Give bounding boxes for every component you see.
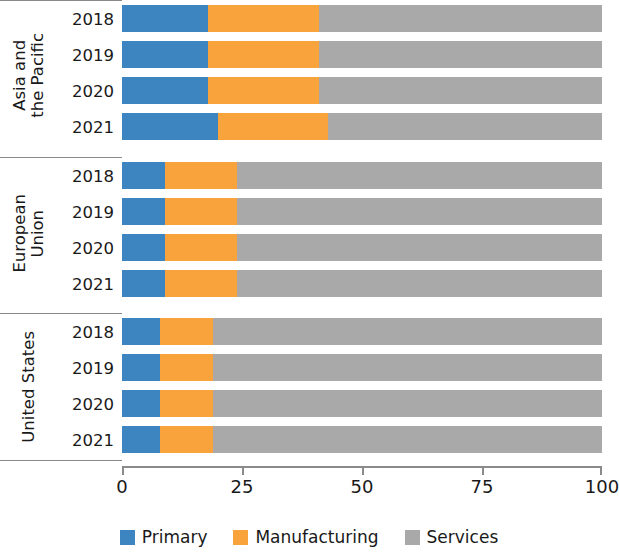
year-label-2018: 2018 (72, 6, 114, 33)
bar-segment-primary (122, 77, 208, 104)
bar-segment-services (213, 390, 602, 417)
plot-area (122, 0, 602, 466)
bar-segment-primary (122, 318, 160, 345)
bar-segment-primary (122, 234, 165, 261)
x-tick-75 (482, 466, 484, 475)
bar-segment-services (237, 270, 602, 297)
bar-segment-manufacturing (165, 198, 237, 225)
bar-segment-primary (122, 198, 165, 225)
group-name-label: EuropeanUnion (11, 194, 48, 273)
bar-row (122, 390, 602, 417)
x-tick-0 (122, 466, 124, 475)
bar-segment-services (213, 426, 602, 453)
group-name-label: Asia andthe Pacific (11, 33, 48, 118)
bar-segment-manufacturing (218, 113, 328, 140)
bar-row (122, 234, 602, 261)
bar-row (122, 426, 602, 453)
bar-segment-manufacturing (165, 270, 237, 297)
legend-item-manufacturing[interactable]: Manufacturing (233, 527, 378, 547)
bar-segment-services (328, 113, 602, 140)
bar-segment-manufacturing (160, 390, 213, 417)
year-label-2021: 2021 (72, 427, 114, 454)
bar-segment-services (319, 41, 602, 68)
legend-label: Services (427, 527, 499, 547)
bar-row (122, 354, 602, 381)
category-axis: Asia andthe Pacific2018201920202021Europ… (0, 0, 122, 466)
legend-item-primary[interactable]: Primary (120, 527, 208, 547)
legend-label: Manufacturing (255, 527, 378, 547)
bar-row (122, 318, 602, 345)
bar-segment-services (237, 162, 602, 189)
bar-segment-services (319, 5, 602, 32)
chart-legend: PrimaryManufacturingServices (0, 527, 618, 547)
year-label-2018: 2018 (72, 163, 114, 190)
bar-row (122, 5, 602, 32)
bar-segment-primary (122, 354, 160, 381)
bar-segment-primary (122, 113, 218, 140)
year-label-2021: 2021 (72, 271, 114, 298)
legend-swatch-icon (233, 530, 248, 545)
x-tick-label-25: 25 (231, 476, 254, 497)
bar-row (122, 162, 602, 189)
year-label-2020: 2020 (72, 78, 114, 105)
year-label-2019: 2019 (72, 355, 114, 382)
bar-segment-services (237, 234, 602, 261)
bar-segment-manufacturing (165, 162, 237, 189)
year-label-2020: 2020 (72, 391, 114, 418)
year-label-2020: 2020 (72, 235, 114, 262)
x-tick-label-0: 0 (116, 476, 127, 497)
bar-row (122, 77, 602, 104)
bar-segment-manufacturing (208, 77, 318, 104)
bar-row (122, 41, 602, 68)
group-name-line: the Pacific (28, 33, 47, 118)
group-name-wrapper: Asia andthe Pacific (6, 1, 52, 150)
group-name-wrapper: United States (6, 314, 52, 460)
bar-segment-primary (122, 5, 208, 32)
bar-segment-manufacturing (160, 318, 213, 345)
bar-row (122, 198, 602, 225)
group-name-label: United States (20, 331, 38, 443)
bar-row (122, 113, 602, 140)
bar-row (122, 270, 602, 297)
group-name-line: United States (19, 331, 38, 443)
bar-segment-services (213, 318, 602, 345)
x-tick-100 (600, 466, 602, 475)
year-label-2019: 2019 (72, 42, 114, 69)
bar-segment-primary (122, 390, 160, 417)
group-name-line: European (10, 194, 29, 273)
bar-segment-services (319, 77, 602, 104)
year-label-2018: 2018 (72, 319, 114, 346)
legend-label: Primary (142, 527, 208, 547)
bar-segment-primary (122, 426, 160, 453)
legend-swatch-icon (405, 530, 420, 545)
x-tick-25 (242, 466, 244, 475)
legend-item-services[interactable]: Services (405, 527, 499, 547)
bar-segment-manufacturing (160, 426, 213, 453)
bar-segment-manufacturing (160, 354, 213, 381)
bar-segment-manufacturing (208, 41, 318, 68)
group-label-european-union: EuropeanUnion2018201920202021 (0, 157, 122, 308)
bar-segment-manufacturing (165, 234, 237, 261)
bar-segment-services (213, 354, 602, 381)
year-label-2021: 2021 (72, 114, 114, 141)
group-name-wrapper: EuropeanUnion (6, 158, 52, 308)
bar-segment-services (237, 198, 602, 225)
x-tick-label-100: 100 (585, 476, 619, 497)
bar-segment-primary (122, 41, 208, 68)
group-label-united-states: United States2018201920202021 (0, 313, 122, 461)
group-label-asia-and-the-pacific: Asia andthe Pacific2018201920202021 (0, 0, 122, 150)
x-tick-label-75: 75 (471, 476, 494, 497)
x-tick-label-50: 50 (351, 476, 374, 497)
year-label-2019: 2019 (72, 199, 114, 226)
x-tick-50 (362, 466, 364, 475)
bar-segment-manufacturing (208, 5, 318, 32)
group-name-line: Asia and (10, 40, 29, 111)
bar-segment-primary (122, 162, 165, 189)
bar-segment-primary (122, 270, 165, 297)
group-name-line: Union (28, 209, 47, 257)
legend-swatch-icon (120, 530, 135, 545)
